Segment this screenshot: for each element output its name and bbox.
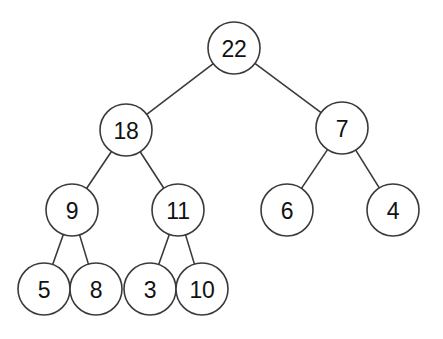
tree-node-7[interactable]: 7: [316, 102, 368, 154]
node-label-11: 11: [166, 198, 189, 224]
node-label-6: 6: [281, 198, 294, 224]
tree-edge-9-8: [80, 235, 89, 264]
tree-node-18[interactable]: 18: [100, 104, 152, 156]
tree-edge-11-3: [159, 235, 170, 265]
node-layer: 221879116458310: [18, 22, 419, 315]
tree-node-5[interactable]: 5: [18, 263, 70, 315]
tree-edge-22-7: [255, 63, 321, 112]
node-label-7: 7: [336, 116, 349, 142]
tree-edge-22-18: [147, 64, 214, 115]
tree-node-4[interactable]: 4: [367, 184, 419, 236]
node-label-5: 5: [38, 277, 51, 303]
tree-edge-7-6: [301, 150, 327, 189]
tree-node-10[interactable]: 10: [176, 263, 228, 315]
node-label-8: 8: [90, 277, 103, 303]
tree-node-22[interactable]: 22: [208, 22, 260, 74]
edge-layer: [53, 63, 380, 264]
node-label-4: 4: [387, 198, 400, 224]
tree-canvas: 221879116458310: [0, 0, 443, 339]
node-label-9: 9: [66, 198, 79, 224]
tree-node-3[interactable]: 3: [124, 263, 176, 315]
tree-edge-18-9: [87, 152, 112, 189]
node-label-3: 3: [144, 277, 157, 303]
tree-edge-9-5: [53, 235, 64, 265]
node-label-22: 22: [221, 36, 246, 62]
tree-node-6[interactable]: 6: [261, 184, 313, 236]
node-label-10: 10: [189, 277, 214, 303]
tree-node-9[interactable]: 9: [46, 184, 98, 236]
node-label-18: 18: [113, 118, 138, 144]
tree-edge-11-10: [186, 235, 195, 264]
tree-edge-18-11: [140, 152, 164, 188]
tree-node-11[interactable]: 11: [152, 184, 204, 236]
tree-edge-7-4: [356, 150, 380, 188]
tree-node-8[interactable]: 8: [70, 263, 122, 315]
binary-tree-diagram: 221879116458310: [0, 0, 443, 339]
